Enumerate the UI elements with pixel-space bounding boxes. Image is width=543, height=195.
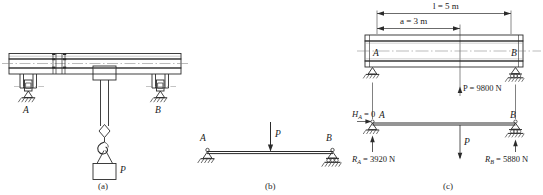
panel-a-load-label: P bbox=[120, 166, 126, 176]
panel-a-drawing bbox=[0, 0, 190, 195]
reaction-b-value: = 5880 N bbox=[494, 154, 528, 164]
panel-c-caption: (c) bbox=[443, 181, 453, 191]
panel-b-caption: (b) bbox=[265, 181, 276, 191]
horizontal-reaction-value: = 0 bbox=[362, 109, 375, 119]
panel-c-drawing bbox=[355, 0, 543, 195]
panel-b-drawing bbox=[190, 0, 355, 195]
panel-c-beam-point-b-label: B bbox=[511, 49, 517, 59]
panel-a: A B P (a) bbox=[0, 0, 190, 195]
reaction-a-subscript: A bbox=[357, 159, 361, 165]
panel-c-fbd-point-a-label: A bbox=[379, 111, 385, 121]
panel-c: l = 5 m a = 3 m A B P = 9800 N HA = 0 A … bbox=[355, 0, 543, 195]
panel-c-span-dimension-label: l = 5 m bbox=[433, 2, 459, 11]
panel-a-support-a-label: A bbox=[23, 106, 29, 116]
panel-b-support-b-label: B bbox=[326, 134, 332, 144]
reaction-b-subscript: B bbox=[490, 159, 494, 165]
panel-c-offset-dimension-label: a = 3 m bbox=[400, 17, 427, 26]
panel-c-beam-point-a-label: A bbox=[373, 49, 379, 59]
beam-figure: A B P (a) bbox=[0, 0, 543, 195]
panel-b: A B P (b) bbox=[190, 0, 355, 195]
panel-c-horizontal-reaction-label: HA = 0 bbox=[352, 110, 375, 119]
panel-a-support-b-label: B bbox=[155, 106, 161, 116]
panel-c-applied-load-label: P = 9800 N bbox=[463, 84, 502, 93]
panel-c-fbd-point-b-label: B bbox=[510, 111, 516, 121]
panel-c-fbd-load-label: P bbox=[464, 138, 470, 148]
panel-a-caption: (a) bbox=[98, 181, 108, 191]
panel-c-reaction-b-label: RB = 5880 N bbox=[485, 155, 528, 164]
panel-b-support-a-label: A bbox=[200, 134, 206, 144]
panel-c-reaction-a-label: RA = 3920 N bbox=[352, 155, 395, 164]
reaction-a-value: = 3920 N bbox=[361, 154, 395, 164]
panel-b-load-label: P bbox=[275, 130, 281, 140]
horizontal-reaction-subscript: A bbox=[358, 114, 362, 120]
